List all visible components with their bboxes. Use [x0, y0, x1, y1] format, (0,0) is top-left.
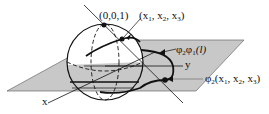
label-part: (l) [196, 43, 206, 55]
label-part: ) [257, 72, 261, 84]
sphere-top-cap [67, 24, 143, 62]
label-part: , x [166, 9, 177, 21]
label-projected-point: φ2(x1, x2, x3) [205, 73, 260, 86]
label-part: ) [181, 9, 185, 21]
label-part: , x [228, 72, 239, 84]
north-pole-point [102, 23, 107, 28]
label-x-axis: x [42, 96, 48, 107]
label-y-axis: y [185, 59, 191, 70]
label-north-pole: (0,0,1) [99, 10, 128, 21]
label-point-on-sphere: (x1, x2, x3) [139, 10, 184, 23]
label-part: , x [152, 9, 163, 21]
label-part: (x [139, 9, 148, 21]
label-part: (x [215, 72, 224, 84]
sphere-point [120, 37, 125, 42]
projected-point [162, 77, 168, 83]
stereographic-projection-diagram [0, 0, 269, 114]
label-part: , x [242, 72, 253, 84]
label-image-curve: φ2φ1(l) [176, 44, 206, 57]
